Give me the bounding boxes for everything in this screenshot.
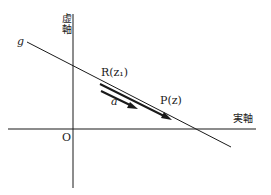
- line-g: [27, 42, 231, 147]
- point-p-label: P(z): [160, 95, 182, 106]
- imaginary-axis-label: 虚軸: [60, 13, 70, 35]
- real-axis-label: 実軸: [233, 114, 253, 124]
- segment-rp: [100, 84, 166, 117]
- origin-label: O: [62, 132, 71, 143]
- diagram-canvas: [0, 0, 271, 195]
- line-g-label: g: [17, 36, 24, 47]
- vector-a-label: a: [111, 96, 118, 107]
- point-r-label: R(z₁): [101, 67, 128, 78]
